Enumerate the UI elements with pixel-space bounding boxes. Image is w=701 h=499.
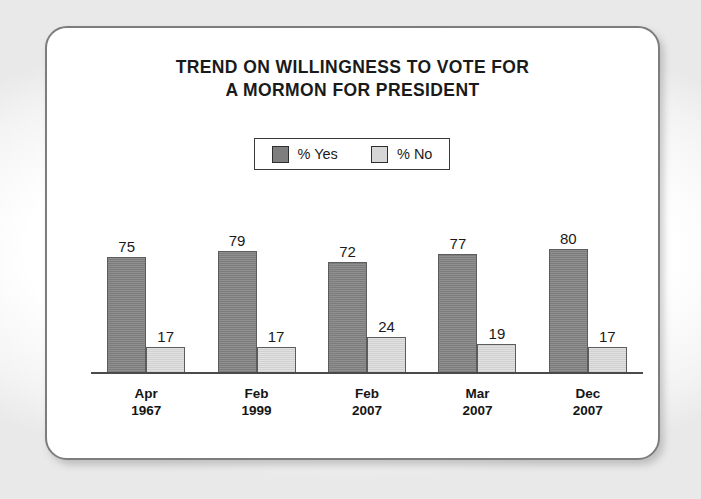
bar-value-label: 72: [339, 244, 356, 259]
legend-item-no: % No: [371, 146, 432, 163]
bar-yes: [107, 257, 146, 374]
legend-label-yes: % Yes: [298, 146, 338, 162]
bar-group: 72 24: [312, 178, 422, 374]
x-axis-label-month: Feb: [312, 385, 422, 402]
x-axis-label: Feb 1999: [201, 378, 311, 426]
chart-title-line-1: TREND ON WILLINGNESS TO VOTE FOR: [47, 56, 658, 79]
legend-item-yes: % Yes: [272, 146, 338, 163]
light-gray-swatch-icon: [371, 146, 388, 163]
bar-value-label: 24: [378, 319, 395, 334]
x-axis-label-month: Feb: [201, 385, 311, 402]
x-axis-label: Feb 2007: [312, 378, 422, 426]
bar-no: [146, 347, 185, 374]
bar-value-label: 17: [157, 329, 174, 344]
bar-column-yes: 77: [438, 178, 477, 374]
bar-value-label: 77: [450, 236, 467, 251]
bar-yes: [549, 249, 588, 374]
legend-label-no: % No: [397, 146, 432, 162]
bar-value-label: 19: [489, 326, 506, 341]
bar-pair: 79 17: [201, 178, 311, 374]
x-axis-label-year: 1967: [91, 402, 201, 419]
chart-title: TREND ON WILLINGNESS TO VOTE FOR A MORMO…: [47, 56, 658, 102]
bar-column-no: 17: [257, 178, 296, 374]
bar-value-label: 17: [599, 329, 616, 344]
dark-gray-swatch-icon: [272, 146, 289, 163]
x-axis-label-month: Mar: [422, 385, 532, 402]
bar-column-no: 17: [588, 178, 627, 374]
x-axis-label-month: Apr: [91, 385, 201, 402]
x-axis-label-year: 2007: [312, 402, 422, 419]
x-axis-label-year: 2007: [533, 402, 643, 419]
chart-card: TREND ON WILLINGNESS TO VOTE FOR A MORMO…: [45, 26, 660, 460]
bar-group: 80 17: [533, 178, 643, 374]
bar-pair: 75 17: [91, 178, 201, 374]
bar-yes: [328, 262, 367, 374]
bar-group: 75 17: [91, 178, 201, 374]
x-axis-line: [91, 372, 643, 374]
bar-no: [367, 337, 406, 374]
bar-value-label: 80: [560, 231, 577, 246]
bar-column-yes: 80: [549, 178, 588, 374]
bar-value-label: 17: [268, 329, 285, 344]
bar-pair: 77 19: [422, 178, 532, 374]
bar-value-label: 75: [118, 239, 135, 254]
bar-column-no: 19: [477, 178, 516, 374]
bar-column-yes: 79: [218, 178, 257, 374]
x-axis-label: Apr 1967: [91, 378, 201, 426]
x-axis-labels: Apr 1967 Feb 1999 Feb 2007 Mar 2007 Dec …: [91, 378, 643, 426]
x-axis-label-month: Dec: [533, 385, 643, 402]
chart-title-line-2: A MORMON FOR PRESIDENT: [47, 79, 658, 102]
bar-group: 77 19: [422, 178, 532, 374]
bar-column-no: 24: [367, 178, 406, 374]
x-axis-label-year: 1999: [201, 402, 311, 419]
bar-yes: [218, 251, 257, 374]
x-axis-label: Mar 2007: [422, 378, 532, 426]
bar-groups: 75 17 79 17: [91, 178, 643, 374]
plot-area: 75 17 79 17: [91, 178, 643, 426]
bar-column-yes: 72: [328, 178, 367, 374]
chart-legend: % Yes % No: [254, 138, 450, 170]
bar-pair: 72 24: [312, 178, 422, 374]
x-axis-label: Dec 2007: [533, 378, 643, 426]
bar-no: [477, 344, 516, 374]
bar-column-yes: 75: [107, 178, 146, 374]
bar-yes: [438, 254, 477, 374]
bar-no: [588, 347, 627, 374]
bar-column-no: 17: [146, 178, 185, 374]
bar-no: [257, 347, 296, 374]
bar-value-label: 79: [229, 233, 246, 248]
bar-group: 79 17: [201, 178, 311, 374]
bar-pair: 80 17: [533, 178, 643, 374]
x-axis-label-year: 2007: [422, 402, 532, 419]
